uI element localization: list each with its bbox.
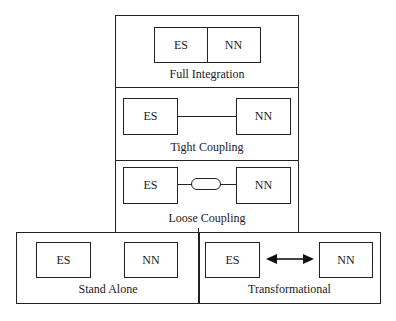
loose-coupling-buffer-pill xyxy=(191,178,221,190)
tight-coupling-connector-line xyxy=(177,116,237,117)
tight-coupling-es-node: ES xyxy=(123,98,178,135)
stand-alone-es-node: ES xyxy=(36,242,91,278)
es-label: ES xyxy=(174,38,188,53)
es-label: ES xyxy=(143,178,157,193)
loose-coupling-nn-node: NN xyxy=(236,167,291,204)
nn-label: NN xyxy=(255,109,272,124)
stand-alone-nn-node: NN xyxy=(124,242,178,278)
double-arrow-icon xyxy=(266,253,314,265)
tight-coupling-nn-node: NN xyxy=(236,98,291,135)
stand-alone-label: Stand Alone xyxy=(16,282,200,297)
es-label: ES xyxy=(143,109,157,124)
nn-label: NN xyxy=(142,253,159,268)
transformational-es-node: ES xyxy=(205,242,260,278)
nn-label: NN xyxy=(255,178,272,193)
full-integration-nn-node: NN xyxy=(207,27,261,63)
loose-coupling-es-node: ES xyxy=(123,167,178,204)
full-integration-label: Full Integration xyxy=(115,67,299,82)
transformational-nn-node: NN xyxy=(319,242,373,278)
nn-label: NN xyxy=(337,253,354,268)
loose-coupling-connector-left xyxy=(177,184,192,185)
es-label: ES xyxy=(56,253,70,268)
loose-coupling-label: Loose Coupling xyxy=(115,211,299,226)
tight-coupling-label: Tight Coupling xyxy=(115,140,299,155)
transformational-label: Transformational xyxy=(198,282,381,297)
es-label: ES xyxy=(225,253,239,268)
loose-coupling-connector-right xyxy=(220,184,237,185)
full-integration-es-node: ES xyxy=(154,27,208,63)
center-divider-tick xyxy=(198,228,199,234)
nn-label: NN xyxy=(225,38,242,53)
